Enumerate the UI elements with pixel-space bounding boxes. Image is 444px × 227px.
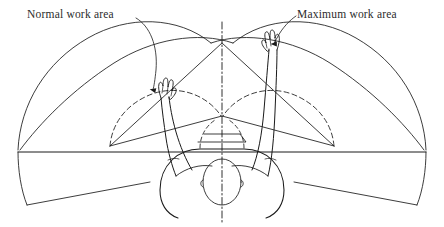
work-area-diagram: Normal work area Maximum work area bbox=[0, 0, 444, 227]
left-wedge-arc bbox=[18, 152, 27, 205]
right-wedge-arc bbox=[417, 152, 426, 205]
diagram-canvas bbox=[0, 0, 444, 227]
right-finger-detail-3 bbox=[266, 43, 267, 48]
normal-work-area-label: Normal work area bbox=[27, 8, 114, 20]
left-finger-detail-1 bbox=[162, 86, 163, 93]
inner-arc-right bbox=[223, 90, 334, 146]
left-wedge-chord bbox=[27, 182, 150, 205]
chord-outer-right bbox=[222, 43, 334, 146]
shoulder-contour bbox=[176, 165, 212, 176]
outer-arc-left bbox=[18, 22, 211, 150]
left-hand bbox=[159, 78, 177, 99]
left-finger-detail-3 bbox=[171, 91, 172, 96]
shoulder-contour-right bbox=[232, 165, 268, 176]
outer-arc-left-tail bbox=[211, 37, 424, 150]
maximum-leader-line bbox=[274, 16, 296, 44]
outer-arc-right-tail bbox=[20, 37, 233, 150]
normal-leader-line bbox=[136, 18, 156, 90]
right-wedge-chord bbox=[294, 182, 417, 205]
chord-outer-left bbox=[110, 43, 222, 146]
maximum-work-area-label: Maximum work area bbox=[297, 8, 397, 20]
